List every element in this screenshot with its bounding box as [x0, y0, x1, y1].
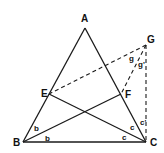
angle-label: b: [34, 124, 39, 133]
geometry-diagram: ABCEFG bbccc'gg': [0, 0, 164, 153]
solid-lines: [23, 28, 146, 142]
segment-gf: [121, 45, 146, 94]
point-label-c: C: [150, 137, 157, 148]
point-label-f: F: [125, 89, 131, 100]
angle-label: g: [129, 54, 134, 63]
angle-label: g': [138, 60, 145, 69]
point-label-a: A: [81, 13, 88, 24]
segment-ab: [23, 28, 85, 142]
angle-label: c: [130, 123, 135, 132]
point-label-e: E: [41, 88, 48, 99]
segment-ac: [85, 28, 146, 142]
segment-bf: [23, 94, 121, 142]
point-label-b: B: [13, 137, 20, 148]
angle-label: c: [122, 133, 127, 142]
segment-ce: [49, 94, 146, 142]
angle-label: c': [140, 118, 146, 127]
point-label-g: G: [147, 34, 155, 45]
angle-label: b: [45, 134, 50, 143]
